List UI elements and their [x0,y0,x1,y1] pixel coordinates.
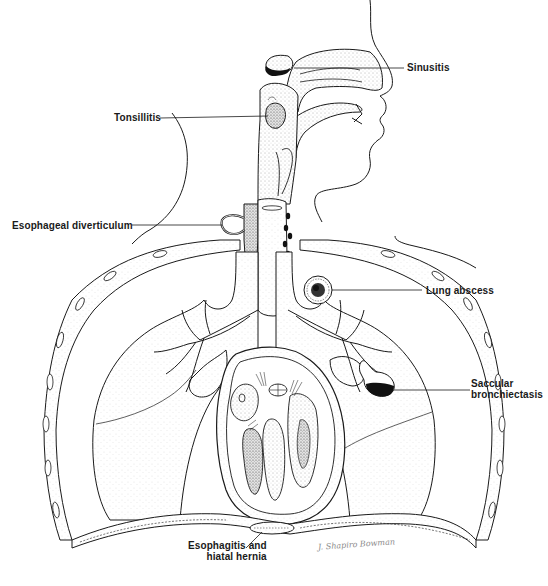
label-esophagitis-line2: hiatal hernia [188,551,267,562]
nasal-cavity [285,49,382,112]
label-saccular-bronchiectasis: Saccular bronchiectasis [471,378,543,400]
label-tonsillitis: Tonsillitis [114,112,161,123]
label-saccular-line2: bronchiectasis [471,389,543,400]
hiatal-hernia [250,522,294,534]
label-esophagitis-line1: Esophagitis and [188,540,267,551]
lung-abscess [304,276,332,304]
label-esophagitis-hiatal-hernia: Esophagitis and hiatal hernia [188,540,267,562]
anatomical-diagram: Sinusitis Tonsillitis Esophageal diverti… [0,0,548,586]
pharynx [258,83,298,204]
label-sinusitis: Sinusitis [407,62,450,73]
tonsil [266,103,286,128]
label-lung-abscess: Lung abscess [426,285,494,296]
label-saccular-line1: Saccular [471,378,543,389]
leader-tonsillitis [160,116,268,118]
label-esophageal-diverticulum: Esophageal diverticulum [12,220,133,231]
esophageal-diverticulum-pouch [222,215,244,234]
sinus-lesion [265,55,293,76]
